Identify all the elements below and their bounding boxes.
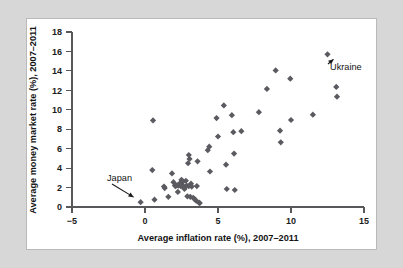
data-point	[229, 112, 235, 118]
data-point	[169, 170, 175, 176]
data-point	[150, 117, 156, 123]
data-point	[138, 199, 144, 205]
data-point	[232, 187, 238, 193]
data-point	[288, 117, 294, 123]
data-point	[238, 128, 244, 134]
y-tick-label: 8	[57, 124, 62, 134]
data-point	[333, 84, 339, 90]
data-point	[149, 167, 155, 173]
annotation-label: Ukraine	[330, 62, 362, 72]
annotation-label: Japan	[107, 173, 132, 183]
y-tick-label: 14	[52, 66, 62, 76]
y-tick-label: 2	[57, 183, 62, 193]
y-tick-label: 4	[57, 163, 62, 173]
y-tick-label: 16	[52, 47, 62, 57]
x-tick-label: 10	[286, 216, 296, 226]
data-point	[213, 115, 219, 121]
data-point	[273, 67, 279, 73]
data-point	[256, 109, 262, 115]
scatter-chart: 024681012141618 −5051015 JapanUkraine Av…	[0, 0, 403, 268]
data-point	[194, 158, 200, 164]
x-axis-title: Average inflation rate (%), 2007–2011	[137, 233, 298, 243]
data-point	[221, 102, 227, 108]
x-tick-label: 15	[359, 216, 369, 226]
y-tick-label: 10	[52, 105, 62, 115]
figure-stage: 024681012141618 −5051015 JapanUkraine Av…	[0, 0, 403, 268]
data-point	[215, 133, 221, 139]
data-point	[207, 168, 213, 174]
y-tick-label: 12	[52, 86, 62, 96]
data-point	[334, 94, 340, 100]
x-axis-ticks: −5051015	[67, 207, 369, 226]
data-point	[310, 112, 316, 118]
data-point	[165, 194, 171, 200]
y-tick-label: 0	[57, 202, 62, 212]
y-axis-title: Average money market rate (%), 2007–2011	[28, 26, 38, 214]
y-axis-ticks: 024681012141618	[52, 27, 72, 212]
annotations-group: JapanUkraine	[107, 59, 362, 197]
data-point	[324, 51, 330, 57]
data-points-group	[138, 51, 341, 206]
x-tick-label: −5	[67, 216, 77, 226]
data-point	[194, 183, 200, 189]
data-point	[287, 76, 293, 82]
data-point	[277, 128, 283, 134]
data-point	[151, 197, 157, 203]
data-point	[175, 189, 181, 195]
x-tick-label: 0	[142, 216, 147, 226]
data-point	[278, 139, 284, 145]
data-point	[224, 186, 230, 192]
y-tick-label: 18	[52, 27, 62, 37]
data-point	[230, 129, 236, 135]
x-tick-label: 5	[215, 216, 220, 226]
data-point	[264, 86, 270, 92]
data-point	[223, 162, 229, 168]
y-tick-label: 6	[57, 144, 62, 154]
data-point	[231, 150, 237, 156]
